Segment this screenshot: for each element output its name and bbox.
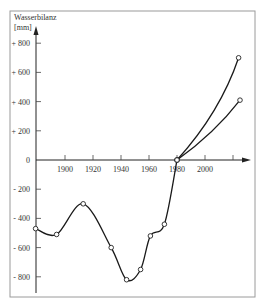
data-point: [162, 222, 167, 227]
x-tick-label: 1940: [113, 165, 129, 174]
series-line-projection-low: [177, 100, 240, 160]
x-tick-label: 1920: [85, 165, 101, 174]
x-tick-label: 1900: [57, 165, 73, 174]
data-point: [124, 277, 129, 282]
y-tick-label: + 800: [11, 39, 30, 48]
y-axis-arrow-icon: [34, 26, 39, 35]
x-ticks: 190019201940196019802000: [57, 155, 233, 174]
y-tick-label: - 800: [13, 273, 30, 282]
y-tick-label: - 200: [13, 185, 30, 194]
data-point: [54, 232, 59, 237]
chart-frame: [10, 11, 255, 297]
data-point: [33, 226, 38, 231]
data-point: [138, 267, 143, 272]
y-axis-label: Wasserbilanz: [14, 13, 57, 22]
y-tick-label: - 400: [13, 214, 30, 223]
x-axis-arrow-icon: [242, 158, 251, 163]
data-point: [238, 98, 243, 103]
y-tick-label: + 200: [11, 127, 30, 136]
water-balance-chart: Wasserbilanz [mm] + 800+ 600+ 400+ 2000-…: [0, 0, 262, 306]
y-tick-label: 0: [26, 156, 30, 165]
y-tick-label: + 600: [11, 68, 30, 77]
data-point: [175, 158, 180, 163]
x-tick-label: 2000: [197, 165, 213, 174]
data-point: [148, 234, 153, 239]
y-tick-label: - 600: [13, 244, 30, 253]
y-axis-unit: [mm]: [14, 23, 32, 32]
x-tick-label: 1980: [169, 165, 185, 174]
x-tick-label: 1960: [141, 165, 157, 174]
y-tick-label: + 400: [11, 98, 30, 107]
series-line-projection-high: [177, 58, 239, 160]
series-line-historical: [36, 160, 177, 281]
data-point: [81, 202, 86, 207]
data-point: [109, 245, 114, 250]
data-point: [236, 56, 241, 61]
